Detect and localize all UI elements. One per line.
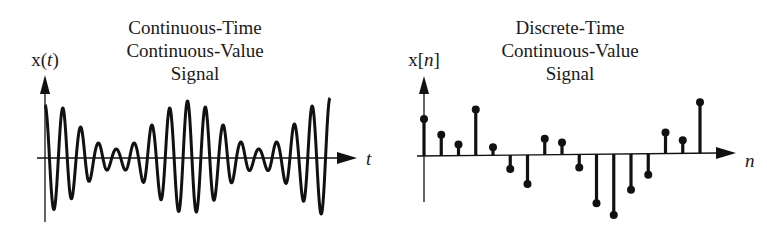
stem-marker-16 <box>696 98 704 106</box>
discrete-stems <box>420 98 704 219</box>
stem-marker-10 <box>593 199 601 207</box>
stem-marker-14 <box>662 129 670 137</box>
discrete-y-axis-label: x[n] <box>408 49 440 70</box>
stem-marker-12 <box>627 186 635 194</box>
stem-marker-5 <box>506 165 514 173</box>
continuous-x-axis-arrow-icon <box>337 152 357 164</box>
stem-marker-13 <box>644 171 652 179</box>
stem-marker-1 <box>437 131 445 139</box>
continuous-x-axis-label: t <box>366 148 372 169</box>
discrete-x-axis <box>417 153 718 156</box>
continuous-title-line-2: Continuous-Value <box>126 40 263 61</box>
stem-marker-3 <box>472 105 480 113</box>
continuous-y-axis-arrow-icon <box>40 75 50 94</box>
stem-marker-6 <box>524 180 532 188</box>
stem-marker-4 <box>489 143 497 151</box>
stem-marker-2 <box>455 141 463 149</box>
signal-diagram: Continuous-Time Continuous-Value Signal … <box>0 0 767 234</box>
stem-marker-0 <box>420 115 428 123</box>
discrete-x-axis-label: n <box>745 150 755 171</box>
continuous-panel: Continuous-Time Continuous-Value Signal … <box>31 17 372 222</box>
stem-marker-15 <box>679 136 687 144</box>
continuous-signal-curve <box>45 98 330 214</box>
stem-marker-9 <box>575 163 583 171</box>
discrete-panel: Discrete-Time Continuous-Value Signal x[… <box>408 17 754 219</box>
stem-marker-8 <box>558 139 566 147</box>
discrete-title-line-3: Signal <box>546 63 595 84</box>
discrete-title-line-1: Discrete-Time <box>515 17 624 38</box>
continuous-title-line-3: Signal <box>171 63 220 84</box>
continuous-y-axis-label: x(t) <box>31 49 58 71</box>
continuous-title-line-1: Continuous-Time <box>128 17 261 38</box>
discrete-y-axis-arrow-icon <box>419 76 429 94</box>
stem-marker-7 <box>541 135 549 143</box>
discrete-title-line-2: Continuous-Value <box>501 40 638 61</box>
discrete-x-axis-arrow-icon <box>716 147 736 159</box>
stem-marker-11 <box>610 211 618 219</box>
